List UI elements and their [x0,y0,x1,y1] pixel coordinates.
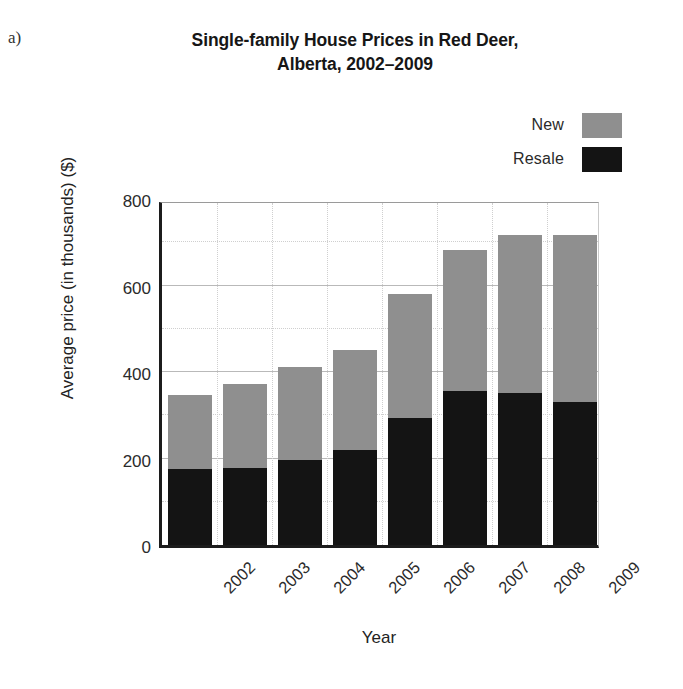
y-tick-0: 0 [87,538,151,558]
bar-group-2008[interactable] [498,235,542,545]
y-tick-400: 400 [87,365,151,385]
x-axis-ticks: 20022003200420052006200720082009 [159,552,599,622]
bar-group-2006[interactable] [388,294,432,545]
bar-segment-resale-2004[interactable] [278,460,322,545]
plot-area [159,202,599,548]
bar-segment-resale-2007[interactable] [443,391,487,545]
bar-segment-resale-2006[interactable] [388,418,432,545]
bar-group-2004[interactable] [278,367,322,545]
x-tick-2008: 2008 [549,558,588,597]
bar-group-2009[interactable] [553,235,597,545]
bar-segment-new-2005[interactable] [333,350,377,450]
bar-series-container [162,203,598,545]
y-tick-200: 200 [87,452,151,472]
bar-segment-resale-2008[interactable] [498,393,542,545]
y-tick-800: 800 [87,192,151,212]
x-tick-2006: 2006 [439,558,478,597]
bar-segment-resale-2002[interactable] [168,469,212,545]
x-tick-2003: 2003 [274,558,313,597]
bar-segment-new-2004[interactable] [278,367,322,460]
bar-segment-new-2006[interactable] [388,294,432,418]
bar-group-2002[interactable] [168,395,212,546]
chart-plot-wrapper: 0200400600800 Average price (in thousand… [0,0,683,689]
y-tick-600: 600 [87,279,151,299]
bar-segment-new-2007[interactable] [443,250,487,391]
bar-segment-resale-2005[interactable] [333,450,377,545]
x-tick-2004: 2004 [329,558,368,597]
bar-segment-resale-2009[interactable] [553,402,597,545]
bar-group-2003[interactable] [223,384,267,545]
x-tick-2002: 2002 [219,558,258,597]
x-tick-2005: 2005 [384,558,423,597]
y-axis-label: Average price (in thousands) ($) [58,128,78,428]
bar-segment-new-2003[interactable] [223,384,267,468]
bar-segment-new-2009[interactable] [553,235,597,402]
x-axis-label: Year [159,628,599,648]
x-tick-2009: 2009 [604,558,643,597]
bar-segment-new-2008[interactable] [498,235,542,393]
x-tick-2007: 2007 [494,558,533,597]
bar-group-2005[interactable] [333,350,377,545]
bar-segment-new-2002[interactable] [168,395,212,470]
bar-segment-resale-2003[interactable] [223,468,267,545]
y-axis-ticks: 0200400600800 [85,202,151,548]
bar-group-2007[interactable] [443,250,487,545]
